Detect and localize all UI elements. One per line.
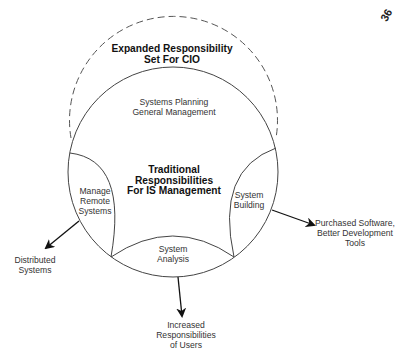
outer-title: Expanded Responsibility Set For CIO [111,44,232,65]
systems-planning-label: Systems Planning General Management [132,97,215,117]
arrow-distributed [46,221,79,248]
left-lens-label: Manage Remote Systems [79,186,112,216]
increased-responsibilities-label: Increased Responsibilities of Users [156,320,216,350]
distributed-systems-label: Distributed Systems [14,255,55,275]
right-lens-label: System Building [234,190,265,210]
arrow-purchased [272,210,314,225]
inner-title: Traditional Responsibilities For IS Mana… [127,165,221,197]
arrow-users [178,277,182,316]
purchased-software-label: Purchased Software, Better Development T… [315,218,395,248]
bottom-lens-label: System Analysis [157,244,189,264]
outer-dashed-circle [70,16,278,138]
